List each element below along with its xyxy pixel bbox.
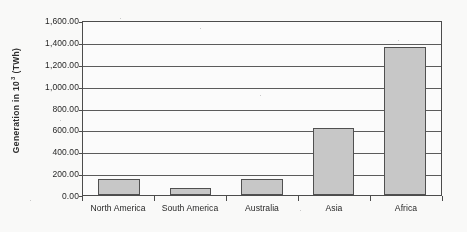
x-axis-tick-label: North America [82, 203, 154, 223]
x-axis-tick [154, 196, 155, 201]
scan-artifact [120, 18, 121, 19]
y-axis-tick-label: 400.00 [22, 147, 79, 157]
plot-area [82, 21, 442, 196]
bar-chart: Generation in 103 (TWh) 1,600.001,400.00… [0, 0, 467, 232]
x-axis-tick-label: Australia [226, 203, 298, 223]
scan-artifact [260, 95, 261, 96]
bar-slot [298, 22, 370, 195]
bar-series [83, 22, 441, 195]
y-axis-tick-label: 1,200.00 [22, 60, 79, 70]
bar[interactable] [384, 47, 426, 195]
y-axis-title-unit: (TWh) [11, 47, 21, 73]
scan-artifact [440, 150, 441, 151]
x-axis-tick [442, 196, 443, 201]
scan-artifact [300, 210, 301, 211]
x-axis-ticks [82, 196, 442, 202]
y-axis-title-base: Generation in 10 [11, 81, 21, 153]
y-axis-title-exponent: 3 [11, 76, 17, 81]
bar[interactable] [241, 179, 283, 195]
y-axis-tick-label: 1,600.00 [22, 16, 79, 26]
scan-artifact [200, 28, 201, 29]
bar[interactable] [170, 188, 212, 195]
y-axis-tick-label: 1,000.00 [22, 82, 79, 92]
y-axis-tick-label: 1,400.00 [22, 38, 79, 48]
x-axis-tick-label: South America [154, 203, 226, 223]
x-axis-tick [82, 196, 83, 201]
x-axis-tick [226, 196, 227, 201]
y-axis-tick-label: 200.00 [22, 169, 79, 179]
bar-slot [369, 22, 441, 195]
x-axis-tick-label: Asia [298, 203, 370, 223]
bar[interactable] [313, 128, 355, 195]
bar-slot [155, 22, 227, 195]
scan-artifact [398, 40, 399, 41]
y-axis-tick-label: 800.00 [22, 104, 79, 114]
bar-slot [226, 22, 298, 195]
y-axis-tick-labels: 1,600.001,400.001,200.001,000.00800.0060… [22, 14, 79, 203]
scan-artifact [60, 120, 61, 121]
bar[interactable] [98, 179, 140, 195]
x-axis-tick [298, 196, 299, 201]
scan-artifact [30, 200, 31, 201]
y-axis-tick-label: 600.00 [22, 125, 79, 135]
bar-slot [83, 22, 155, 195]
x-axis-tick [370, 196, 371, 201]
x-axis-tick-label: Africa [370, 203, 442, 223]
x-axis-tick-labels: North AmericaSouth AmericaAustraliaAsiaA… [82, 203, 442, 223]
